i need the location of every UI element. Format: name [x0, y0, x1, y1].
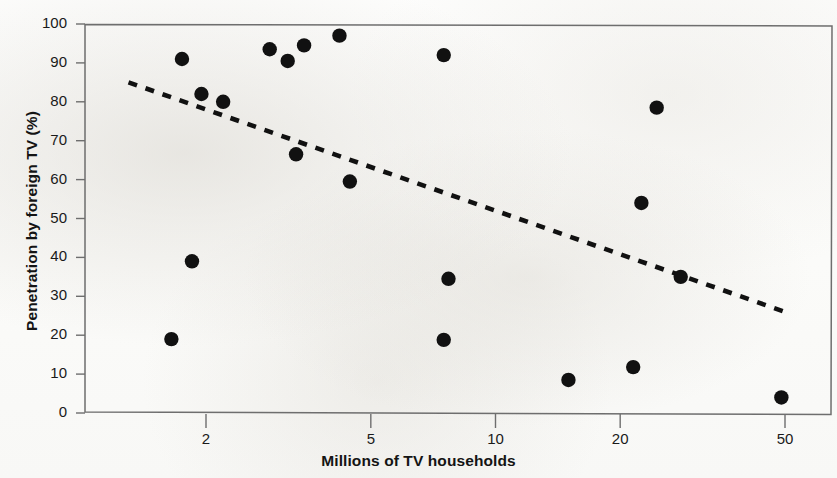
data-point	[194, 87, 208, 101]
data-point	[634, 196, 648, 210]
data-points	[164, 28, 788, 404]
data-point	[774, 390, 788, 404]
x-tick-label: 50	[765, 430, 805, 447]
data-point	[649, 100, 663, 114]
x-tick-label: 2	[186, 430, 226, 447]
y-tick-label: 0	[27, 403, 67, 420]
plot-frame	[85, 25, 832, 415]
y-tick-label: 100	[27, 14, 67, 31]
data-point	[343, 174, 357, 188]
data-point	[441, 272, 455, 286]
data-point	[175, 52, 189, 66]
x-tick-label: 20	[600, 430, 640, 447]
x-axis-title: Millions of TV households	[0, 452, 837, 470]
data-point	[281, 54, 295, 68]
plot-canvas	[0, 0, 837, 478]
data-point	[164, 332, 178, 346]
data-point	[332, 28, 346, 42]
tick-marks	[76, 24, 785, 428]
scatter-plot-figure: 0102030405060708090100 25102050 Penetrat…	[0, 0, 837, 478]
data-point	[561, 373, 575, 387]
data-point	[185, 254, 199, 268]
data-point	[626, 360, 640, 374]
x-tick-label: 10	[476, 430, 516, 447]
data-point	[263, 42, 277, 56]
data-point	[674, 270, 688, 284]
y-axis-title: Penetration by foreign TV (%)	[23, 41, 41, 401]
data-point	[437, 333, 451, 347]
data-point	[289, 147, 303, 161]
x-tick-label: 5	[351, 430, 391, 447]
data-point	[297, 38, 311, 52]
data-point	[216, 95, 230, 109]
data-point	[437, 48, 451, 62]
